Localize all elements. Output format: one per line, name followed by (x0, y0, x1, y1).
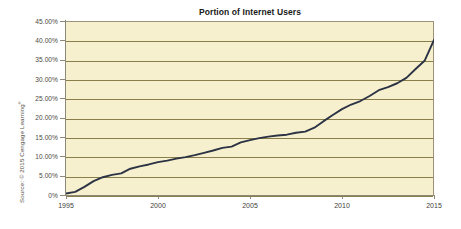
x-axis-tick-label: 2015 (414, 202, 454, 210)
y-axis-tick-label: 35.00% (8, 56, 58, 63)
x-axis-tick (250, 195, 251, 199)
y-axis-tick-label: 30.00% (8, 76, 58, 83)
y-axis-tick-label: 15.00% (8, 134, 58, 141)
x-axis-tick-label: 1995 (46, 202, 86, 210)
y-axis-tick-label: 0% (8, 192, 58, 199)
x-axis-tick (342, 195, 343, 199)
y-axis-tick-label: 20.00% (8, 114, 58, 121)
y-axis-tick-label: 40.00% (8, 37, 58, 44)
series-path-internet-users (66, 40, 434, 194)
y-axis-tick-label: 45.00% (8, 18, 58, 25)
chart-title: Portion of Internet Users (66, 7, 434, 17)
x-axis-tick-label: 2010 (322, 202, 362, 210)
x-axis-tick (66, 195, 67, 199)
x-axis-tick-label: 2005 (230, 202, 270, 210)
chart-figure: Portion of Internet Users Source: © 2015… (0, 0, 461, 229)
x-axis-tick (158, 195, 159, 199)
y-axis-tick-label: 5.00% (8, 172, 58, 179)
data-series-line (66, 21, 434, 195)
x-axis-tick (434, 195, 435, 199)
x-axis-tick-label: 2000 (138, 202, 178, 210)
y-axis-labels: 45.00%40.00%35.00%30.00%25.00%20.00%15.0… (0, 0, 58, 229)
y-axis-tick-label: 10.00% (8, 153, 58, 160)
y-axis-tick-label: 25.00% (8, 95, 58, 102)
